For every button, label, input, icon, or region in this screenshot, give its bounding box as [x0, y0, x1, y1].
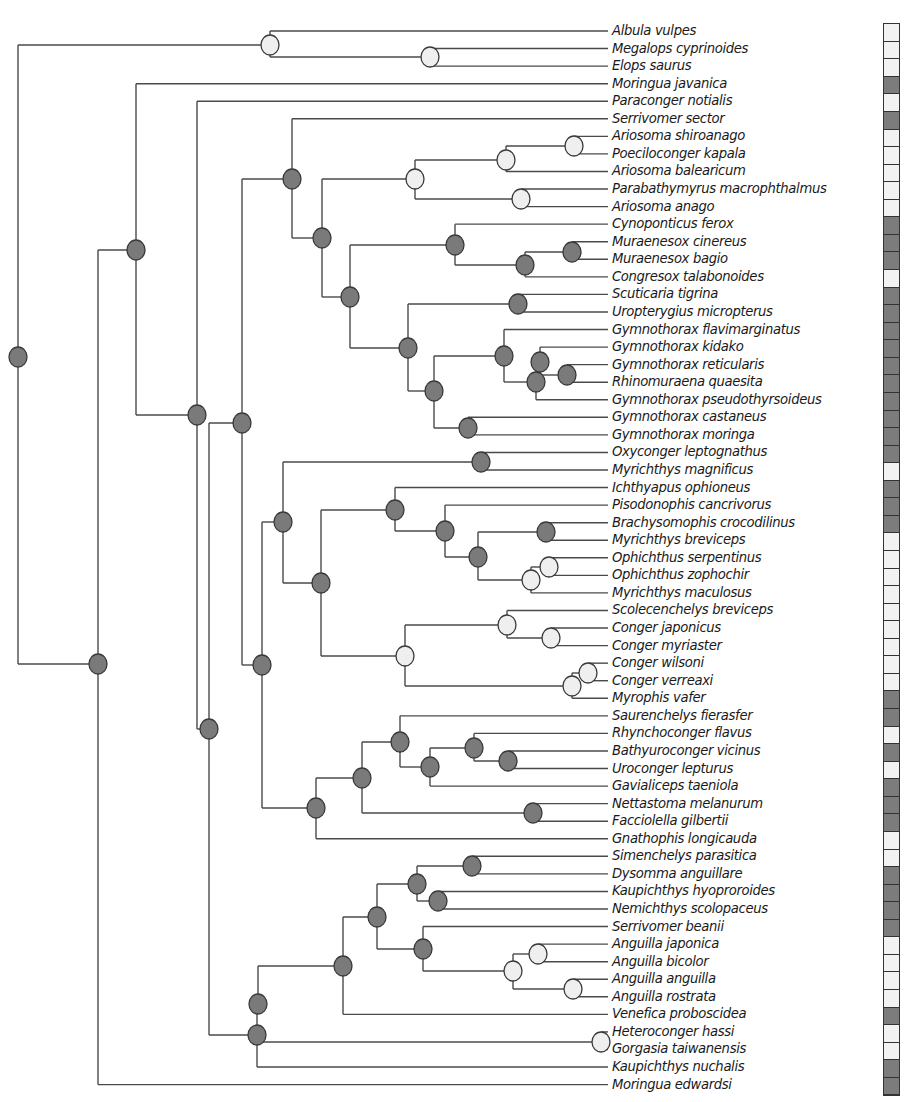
tip-label: Paraconger notialis	[612, 93, 732, 109]
ancestral-state-node-dark	[249, 994, 267, 1014]
trait-cell-light	[884, 165, 899, 183]
trait-cell-light	[884, 621, 899, 639]
tip-label: Kaupichthys hyoproroides	[612, 883, 775, 899]
ancestral-state-node-light	[563, 676, 581, 696]
trait-cell-light	[884, 639, 899, 657]
ancestral-state-node-dark	[89, 654, 107, 674]
ancestral-state-node-dark	[408, 874, 426, 894]
tip-label: Muraenesox bagio	[612, 251, 728, 267]
ancestral-state-node-dark	[436, 521, 454, 541]
trait-cell-dark	[884, 305, 899, 323]
ancestral-state-node-dark	[414, 939, 432, 959]
tip-label: Megalops cyprinoides	[612, 41, 748, 57]
trait-cell-dark	[884, 709, 899, 727]
trait-cell-light	[884, 182, 899, 200]
ancestral-state-node-dark	[313, 228, 331, 248]
trait-cell-dark	[884, 358, 899, 376]
ancestral-state-node-light	[512, 189, 530, 209]
tip-label: Ariosoma anago	[612, 199, 714, 215]
ancestral-state-node-light	[564, 979, 582, 999]
trait-cell-dark	[884, 1008, 899, 1026]
tip-label: Conger wilsoni	[612, 655, 704, 671]
tip-label: Saurenchelys fierasfer	[612, 708, 752, 724]
ancestral-state-node-light	[522, 570, 540, 590]
ancestral-state-node-dark	[9, 347, 27, 367]
trait-cell-dark	[884, 481, 899, 499]
tip-label: Myrophis vafer	[612, 690, 705, 706]
ancestral-state-node-dark	[524, 803, 542, 823]
tip-label: Gavialiceps taeniola	[612, 778, 738, 794]
trait-cell-light	[884, 972, 899, 990]
tip-label: Bathyuroconger vicinus	[612, 743, 760, 759]
tip-label: Ariosoma balearicum	[612, 163, 745, 179]
ancestral-state-node-light	[498, 615, 516, 635]
tip-label: Heteroconger hassi	[612, 1024, 734, 1040]
tip-label: Moringua edwardsi	[612, 1077, 732, 1093]
trait-cell-dark	[884, 1078, 899, 1096]
tip-label: Simenchelys parasitica	[612, 848, 757, 864]
ancestral-state-node-light	[542, 628, 560, 648]
ancestral-state-node-dark	[307, 798, 325, 818]
ancestral-state-node-light	[579, 663, 597, 683]
trait-cell-dark	[884, 446, 899, 464]
ancestral-state-node-dark	[274, 512, 292, 532]
trait-cell-light	[884, 147, 899, 165]
ancestral-state-node-dark	[499, 751, 517, 771]
tip-label: Albula vulpes	[612, 23, 696, 39]
trait-cell-dark	[884, 691, 899, 709]
tip-label: Poeciloconger kapala	[612, 146, 745, 162]
trait-cell-light	[884, 94, 899, 112]
trait-cell-dark	[884, 77, 899, 95]
trait-cell-dark	[884, 112, 899, 130]
ancestral-state-node-dark	[200, 719, 218, 739]
ancestral-state-node-light	[565, 136, 583, 156]
ancestral-state-node-dark	[391, 732, 409, 752]
trait-cell-light	[884, 42, 899, 60]
tip-label: Ophichthus serpentinus	[612, 550, 761, 566]
trait-cell-dark	[884, 867, 899, 885]
ancestral-state-node-dark	[368, 907, 386, 927]
ancestral-state-node-light	[421, 47, 439, 67]
tip-label: Brachysomophis crocodilinus	[612, 515, 795, 531]
trait-cell-light	[884, 551, 899, 569]
tip-label: Myrichthys breviceps	[612, 532, 745, 548]
trait-cell-dark	[884, 779, 899, 797]
ancestral-state-node-dark	[469, 547, 487, 567]
tip-label: Uroconger lepturus	[612, 761, 733, 777]
trait-cell-light	[884, 674, 899, 692]
ancestral-state-node-dark	[341, 287, 359, 307]
trait-cell-light	[884, 130, 899, 148]
tip-label: Gorgasia taiwanensis	[612, 1041, 746, 1057]
ancestral-state-node-dark	[465, 738, 483, 758]
tip-label: Gymnothorax kidako	[612, 339, 744, 355]
trait-cell-dark	[884, 340, 899, 358]
tip-label: Kaupichthys nuchalis	[612, 1059, 744, 1075]
ancestral-state-node-dark	[446, 235, 464, 255]
trait-cell-light	[884, 937, 899, 955]
ancestral-state-node-light	[261, 35, 279, 55]
trait-cell-light	[884, 586, 899, 604]
tip-label: Anguilla rostrata	[612, 989, 716, 1005]
tip-label: Uropterygius micropterus	[612, 304, 773, 320]
tip-label: Dysomma anguillare	[612, 866, 742, 882]
trait-cell-dark	[884, 516, 899, 534]
trait-cell-light	[884, 533, 899, 551]
ancestral-state-node-light	[396, 646, 414, 666]
trait-cell-light	[884, 656, 899, 674]
tip-label: Gymnothorax pseudothyrsoideus	[612, 392, 821, 408]
tip-label: Nemichthys scolopaceus	[612, 901, 768, 917]
trait-cell-light	[884, 832, 899, 850]
tip-label: Scuticaria tigrina	[612, 286, 718, 302]
tree-nodes	[9, 35, 610, 1052]
ancestral-state-node-dark	[463, 856, 481, 876]
tip-label: Conger verreaxi	[612, 673, 713, 689]
ancestral-state-node-light	[540, 557, 558, 577]
tip-label: Pisodonophis cancrivorus	[612, 497, 771, 513]
phylogenetic-tree	[0, 0, 916, 1102]
ancestral-state-node-dark	[253, 655, 271, 675]
tip-label: Nettastoma melanurum	[612, 796, 763, 812]
ancestral-state-node-dark	[127, 240, 145, 260]
tip-label: Rhinomuraena quaesita	[612, 374, 762, 390]
ancestral-state-node-light	[406, 169, 424, 189]
ancestral-state-node-dark	[312, 573, 330, 593]
